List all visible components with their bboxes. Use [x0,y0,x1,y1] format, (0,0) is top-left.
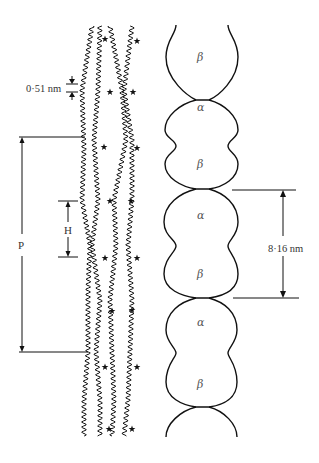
dimer-length-dimension: 8·16 nm [232,190,303,298]
star-marker-icon [134,364,141,370]
subunit-label-alpha: α [197,209,205,222]
star-marker-icon [107,89,114,95]
star-marker-icon [102,255,109,261]
subunit-label-alpha: α [197,316,205,329]
wavy-chain [108,26,128,436]
wavy-chain [122,26,134,436]
star-marker-icon [129,426,136,432]
wavy-chains [80,26,134,436]
diagram-canvas: 0·51 nm P H β α β α β [0,0,319,463]
wavy-chain [80,26,94,436]
star-marker-icon [101,144,108,150]
subunit-label-beta: β [196,158,203,171]
star-marker-icon [102,36,109,42]
period-dimension: P [18,137,88,352]
wavy-chain [90,26,102,436]
star-marker-icon [102,364,109,370]
subunit-label-beta: β [196,51,203,64]
dimer-length-label: 8·16 nm [268,243,303,254]
spacing-dimension: 0·51 nm [26,76,78,100]
period-label: P [18,239,24,251]
subunit-labels: β α β α β α β [196,51,205,391]
star-marker-icon [130,89,137,95]
subunit-chain [164,25,238,437]
half-period-label: H [64,224,72,236]
subunit-label-beta: β [196,378,203,391]
spacing-label: 0·51 nm [26,83,61,94]
star-markers [101,36,141,432]
subunit-label-beta: β [196,268,203,281]
subunit-label-alpha: α [197,101,205,114]
star-marker-icon [134,38,141,44]
star-marker-icon [134,255,141,261]
half-period-dimension: H [58,201,78,257]
